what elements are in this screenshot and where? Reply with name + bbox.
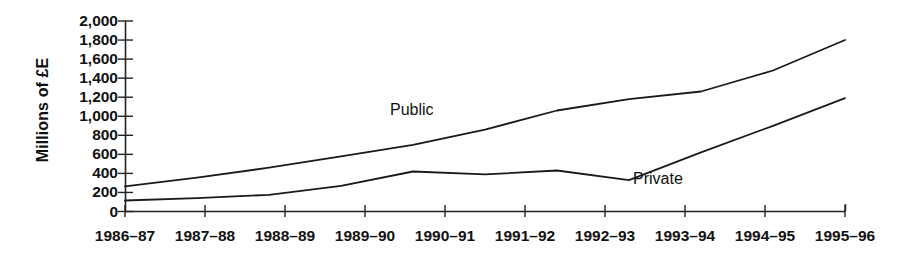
- line-chart: Millions of £E 02004006008001,0001,2001,…: [0, 0, 912, 266]
- series-line-public: [125, 40, 845, 186]
- axis-lines: [125, 21, 846, 212]
- series-lines: [125, 40, 845, 201]
- series-label-public: Public: [390, 101, 434, 119]
- series-label-private: Private: [633, 170, 683, 188]
- series-line-private: [125, 98, 845, 200]
- plot-area: [0, 0, 912, 266]
